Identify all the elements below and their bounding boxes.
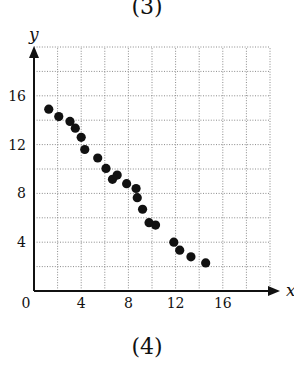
y-tick-label: 16 <box>8 88 26 104</box>
data-point <box>101 164 110 173</box>
y-tick-label: 12 <box>8 137 26 153</box>
top-caption-cropped: (3) <box>131 0 162 19</box>
x-tick-label: 12 <box>167 295 185 311</box>
data-point <box>80 145 89 154</box>
data-point <box>169 238 178 247</box>
x-tick-label: 4 <box>77 295 86 311</box>
y-tick-label: 8 <box>17 185 26 201</box>
data-point <box>186 252 195 261</box>
x-tick-label: 16 <box>214 295 232 311</box>
x-tick-label: 8 <box>124 295 133 311</box>
data-point <box>71 124 80 133</box>
data-point <box>113 171 122 180</box>
y-axis-arrow-icon <box>29 46 39 58</box>
data-point <box>44 105 53 114</box>
data-point <box>175 246 184 255</box>
data-point <box>93 153 102 162</box>
grid <box>34 47 270 291</box>
data-point <box>133 193 142 202</box>
axes: x y 0 <box>22 24 294 311</box>
y-axis-label: y <box>28 24 39 44</box>
data-point <box>201 258 210 267</box>
tick-labels: 481216481216 <box>8 88 232 311</box>
data-points <box>44 105 210 268</box>
data-point <box>54 112 63 121</box>
y-tick-label: 4 <box>17 234 26 250</box>
scatter-plot: (3) x y 0 481216481216 (4) <box>0 0 294 365</box>
x-axis-arrow-icon <box>268 286 280 296</box>
data-point <box>122 179 131 188</box>
data-point <box>77 133 86 142</box>
x-axis-label: x <box>286 280 294 300</box>
bottom-caption: (4) <box>131 334 162 359</box>
data-point <box>138 205 147 214</box>
data-point <box>131 184 140 193</box>
origin-label: 0 <box>22 295 31 311</box>
data-point <box>151 221 160 230</box>
